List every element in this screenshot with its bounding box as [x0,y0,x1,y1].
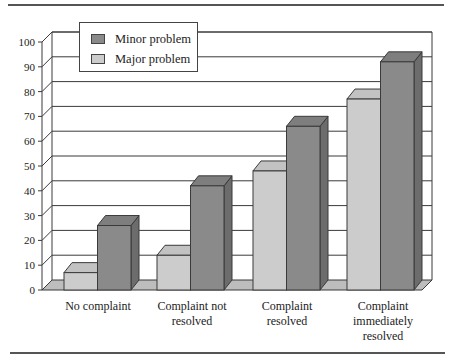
bar-minor-2 [287,116,329,290]
y-tick-label: 0 [30,284,36,296]
x-category-label: Complaint not resolved [137,299,247,329]
y-tick-label: 90 [24,61,36,73]
y-tick-label: 20 [24,234,36,246]
legend-item-minor-problem: Minor problem [91,31,191,47]
x-category-label: Complaint resolved [232,299,342,329]
y-tick-label: 30 [24,210,36,222]
legend-swatch-minor [91,34,105,44]
y-tick-label: 10 [24,259,36,271]
y-tick-label: 50 [24,160,36,172]
y-tick-label: 80 [24,86,36,98]
y-tick-label: 60 [24,135,36,147]
y-tick-label: 100 [19,36,36,48]
legend-label: Major problem [115,52,190,67]
bars [64,52,422,290]
bar-minor-0 [98,216,140,290]
chart-legend: Minor problem Major problem [79,22,198,72]
legend-item-major-problem: Major problem [91,51,190,67]
x-category-label: Complaint immediately resolved [328,299,438,344]
bar-minor-3 [381,52,423,290]
y-tick-label: 70 [24,110,36,122]
legend-label: Minor problem [115,32,191,47]
bar-minor-1 [191,176,233,290]
y-tick-label: 40 [24,185,36,197]
legend-swatch-major [91,54,105,64]
